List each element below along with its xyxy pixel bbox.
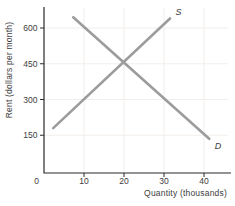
x-axis-title: Quantity (thousands) (144, 188, 227, 198)
y-tick-label-150: 150 (23, 130, 37, 140)
supply-curve-label: S (176, 7, 182, 17)
x-tick-label-40: 40 (199, 176, 209, 186)
x-tick-label-30: 30 (159, 176, 169, 186)
y-tick-label-450: 450 (23, 59, 37, 69)
x-tick-label-10: 10 (79, 176, 89, 186)
supply-demand-figure: Rent (dollars per month) 102030401503004… (0, 0, 235, 206)
y-tick-label-600: 600 (23, 23, 37, 33)
supply-curve (53, 18, 170, 128)
demand-curve (73, 17, 209, 139)
demand-curve-label: D (215, 141, 222, 151)
supply-demand-chart: 102030401503004506000SD (0, 0, 235, 206)
axes (44, 7, 231, 173)
y-tick-label-300: 300 (23, 95, 37, 105)
x-tick-label-20: 20 (119, 176, 129, 186)
origin-label: 0 (34, 176, 39, 186)
